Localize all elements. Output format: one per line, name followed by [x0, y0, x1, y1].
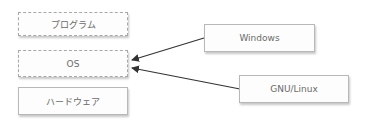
layer-hardware: ハードウェア [18, 87, 128, 115]
os-windows: Windows [204, 24, 315, 52]
layer-hardware-label: ハードウェア [46, 95, 100, 108]
os-windows-label: Windows [239, 33, 279, 43]
arrow-windows-to-os [132, 38, 204, 60]
os-gnu-linux-label: GNU/Linux [270, 84, 318, 94]
arrow-linux-to-os [132, 68, 240, 89]
layer-os: OS [18, 50, 128, 77]
os-gnu-linux: GNU/Linux [239, 75, 349, 103]
layer-program-label: プログラム [51, 18, 96, 31]
layer-program: プログラム [18, 12, 128, 36]
layer-os-label: OS [67, 59, 80, 69]
